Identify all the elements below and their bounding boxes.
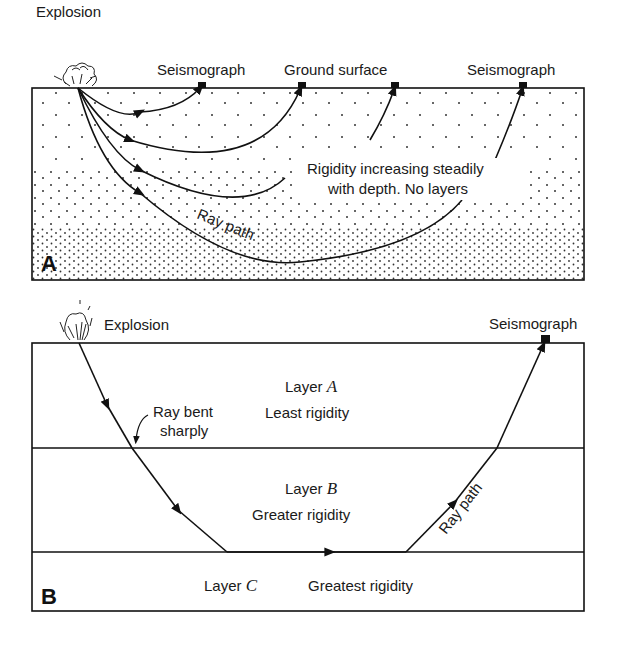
panel-letter-b: B [41,584,57,609]
seismograph-label-1: Seismograph [157,61,245,78]
panel-a: Explosion Seismograph Ground surface Sei… [32,3,584,280]
sparse-dots [32,88,584,168]
layer-c-name: Layer C [204,576,258,595]
seismograph-label-b: Seismograph [489,315,577,332]
rigidity-note-line-1: Rigidity increasing steadily [307,160,484,177]
explosion-label-a: Explosion [36,3,101,20]
bend-pointer [136,415,148,440]
panel-letter-a: A [41,251,57,276]
layer-a-desc: Least rigidity [265,404,350,421]
layer-b-desc: Greater rigidity [252,506,351,523]
seismic-diagram: Explosion Seismograph Ground surface Sei… [0,0,618,645]
dense-dots [32,228,584,280]
seismograph-label-2: Seismograph [467,61,555,78]
explosion-icon [60,300,92,340]
seismograph-marker-b [541,335,550,343]
seismograph-marker-1 [198,82,206,88]
panel-b: Explosion Seismograph Layer A Least rigi… [32,300,584,611]
layer-c-desc: Greatest rigidity [308,577,414,594]
explosion-label-b: Explosion [104,316,169,333]
ray-path-label-b: Ray path [435,479,485,537]
layer-b-name: Layer B [285,479,338,498]
layer-a-name: Layer A [285,377,338,396]
ground-surface-label: Ground surface [284,61,387,78]
explosion-icon [54,63,97,86]
seismograph-marker-4 [519,82,527,88]
seismograph-marker-3 [391,82,399,88]
seismograph-marker-2 [298,82,306,88]
bend-note-line-2: sharply [160,422,209,439]
rigidity-note-line-2: with depth. No layers [327,180,468,197]
bend-note-line-1: Ray bent [153,403,214,420]
